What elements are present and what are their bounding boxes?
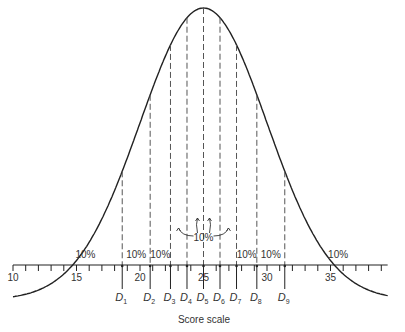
decile-label: D9 [278,291,290,305]
arrow-left-outer [179,228,194,236]
decile-label: D2 [143,291,155,305]
decile-subscript: 4 [188,298,192,305]
decile-dot [256,265,259,268]
decile-subscript: 8 [258,298,262,305]
decile-subscript: 2 [151,298,155,305]
decile-markers: D1D2D3D4D5D6D7D8D9 [115,265,290,305]
percent-label: 10% [261,249,281,260]
decile-subscript: 5 [205,298,209,305]
decile-dot [235,265,238,268]
decile-label: D5 [197,291,209,305]
percent-label: 10% [126,249,146,260]
decile-dot [186,265,189,268]
percent-label: 10% [237,249,257,260]
decile-dot [202,265,205,268]
decile-dot [121,265,124,268]
axis-tick-label: 10 [7,272,19,283]
x-axis-label: Score scale [178,314,231,325]
decile-label: D6 [213,291,225,305]
decile-subscript: 6 [221,298,225,305]
percent-label: 10% [75,249,95,260]
percent-label: 10% [328,249,348,260]
decile-normal-curve-diagram: 101520253035 D1D2D3D4D5D6D7D8D9 10%10%10… [0,0,405,332]
center-percent-label: 10% [193,232,213,243]
axis-tick-label: 30 [261,272,273,283]
decile-dot [219,265,222,268]
arrowhead-icon [177,228,181,231]
arrow-right-inner [210,218,211,233]
decile-dot [283,265,286,268]
decile-dot [169,265,172,268]
arrowhead-icon [227,228,231,231]
arrow-left-inner [197,218,198,233]
decile-label: D7 [230,291,242,305]
arrow-right-outer [214,228,229,236]
decile-label: D1 [115,291,127,305]
decile-label: D4 [180,291,192,305]
decile-label: D3 [164,291,176,305]
decile-label: D8 [250,291,262,305]
axis-tick-label: 20 [134,272,146,283]
percent-label: 10% [150,249,170,260]
decile-dot [149,265,152,268]
axis-tick-label: 35 [325,272,337,283]
decile-subscript: 9 [286,298,290,305]
decile-subscript: 7 [238,298,242,305]
decile-subscript: 3 [172,298,176,305]
decile-subscript: 1 [123,298,127,305]
decile-dashed-lines [122,8,285,265]
axis-tick-label: 15 [71,272,83,283]
